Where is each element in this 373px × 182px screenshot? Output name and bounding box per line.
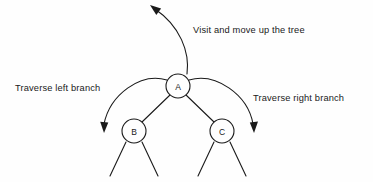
arrowhead-visit-up <box>150 5 161 15</box>
arc-visit-up <box>155 9 188 74</box>
edge-b-right-child <box>142 142 158 176</box>
annotation-traverse-left-branch: Traverse left branch <box>15 83 100 93</box>
annotation-traverse-right-branch: Traverse right branch <box>253 93 344 103</box>
arc-traverse-left <box>104 78 167 124</box>
diagram-canvas: A B C Visit and move up the tree Travers… <box>0 0 373 182</box>
node-a-label: A <box>175 82 181 92</box>
node-b-label: B <box>131 127 137 137</box>
edge-c-right-child <box>230 142 246 176</box>
arrowhead-traverse-right <box>250 122 258 133</box>
edge-a-to-c <box>186 95 214 122</box>
arc-traverse-right <box>189 78 253 124</box>
arrowhead-traverse-left <box>100 122 108 133</box>
node-c-label: C <box>219 127 225 137</box>
edge-c-left-child <box>198 142 214 176</box>
edge-b-left-child <box>110 142 126 176</box>
edge-a-to-b <box>142 95 170 122</box>
annotation-visit-and-move-up: Visit and move up the tree <box>193 25 305 35</box>
